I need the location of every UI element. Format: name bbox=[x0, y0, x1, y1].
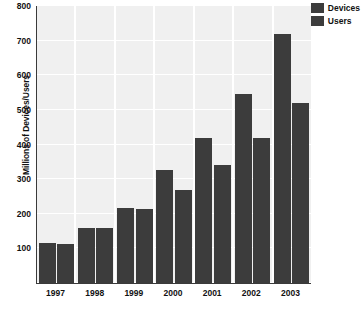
y-axis-tick-100: 100 bbox=[17, 243, 31, 253]
x-axis-tick-1997: 1997 bbox=[36, 288, 75, 298]
bar-series-container bbox=[37, 6, 311, 283]
legend-label-users: Users bbox=[328, 16, 352, 26]
bar-group-2003 bbox=[272, 6, 311, 283]
legend-item-users[interactable]: Users bbox=[311, 16, 360, 26]
bar-devices-2001 bbox=[195, 138, 212, 283]
legend-swatch-users bbox=[311, 16, 324, 26]
y-axis-tick-600: 600 bbox=[17, 70, 31, 80]
bar-devices-2002 bbox=[235, 94, 252, 283]
chart-legend: DevicesUsers bbox=[311, 3, 360, 26]
x-axis-tick-2001: 2001 bbox=[193, 288, 232, 298]
bar-users-1998 bbox=[96, 228, 113, 283]
y-axis-tick-700: 700 bbox=[17, 36, 31, 46]
bar-group-1999 bbox=[115, 6, 154, 283]
x-axis-tick-1998: 1998 bbox=[75, 288, 114, 298]
legend-label-devices: Devices bbox=[328, 3, 360, 13]
bar-users-2002 bbox=[253, 138, 270, 283]
bar-devices-1997 bbox=[39, 243, 56, 283]
bar-group-2002 bbox=[233, 6, 272, 283]
x-axis-tick-labels: 1997199819992000200120022003 bbox=[36, 288, 310, 298]
bar-users-2000 bbox=[175, 190, 192, 283]
bar-users-1999 bbox=[136, 209, 153, 283]
bar-group-1997 bbox=[37, 6, 76, 283]
x-axis-tick-2000: 2000 bbox=[153, 288, 192, 298]
y-axis-tick-400: 400 bbox=[17, 140, 31, 150]
x-axis-tick-2003: 2003 bbox=[271, 288, 310, 298]
x-axis-tick-2002: 2002 bbox=[232, 288, 271, 298]
y-axis-tick-800: 800 bbox=[17, 1, 31, 11]
y-axis-tick-200: 200 bbox=[17, 209, 31, 219]
plot-area bbox=[36, 6, 311, 284]
legend-item-devices[interactable]: Devices bbox=[311, 3, 360, 13]
bar-devices-2000 bbox=[156, 170, 173, 283]
bar-users-2001 bbox=[214, 165, 231, 283]
bar-chart: Millions of Devices/Users 10020030040050… bbox=[0, 0, 362, 309]
bar-devices-2003 bbox=[274, 34, 291, 283]
bar-devices-1998 bbox=[78, 228, 95, 283]
y-axis-tick-300: 300 bbox=[17, 174, 31, 184]
y-axis-tick-500: 500 bbox=[17, 105, 31, 115]
legend-swatch-devices bbox=[311, 3, 324, 13]
bar-group-2001 bbox=[194, 6, 233, 283]
bar-users-2003 bbox=[292, 103, 309, 283]
bar-users-1997 bbox=[57, 244, 74, 283]
bar-group-2000 bbox=[154, 6, 193, 283]
y-axis-tick-labels: 100200300400500600700800 bbox=[0, 0, 34, 309]
bar-devices-1999 bbox=[117, 208, 134, 283]
x-axis-tick-1999: 1999 bbox=[114, 288, 153, 298]
bar-group-1998 bbox=[76, 6, 115, 283]
